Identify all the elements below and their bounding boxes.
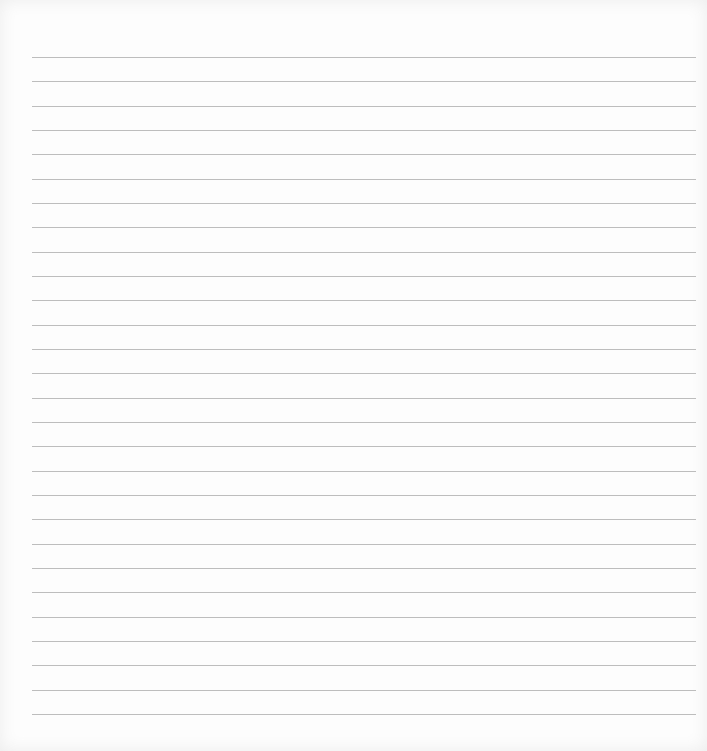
ruled-line [32,81,696,82]
ruled-line [32,57,696,58]
ruled-line [32,471,696,472]
ruled-line [32,422,696,423]
ruled-line [32,227,696,228]
ruled-line [32,130,696,131]
ruled-line [32,495,696,496]
ruled-line [32,203,696,204]
ruled-line [32,568,696,569]
ruled-line [32,252,696,253]
ruled-line [32,714,696,715]
ruled-line [32,106,696,107]
ruled-line [32,665,696,666]
ruled-line [32,446,696,447]
ruled-line [32,300,696,301]
ruled-line [32,519,696,520]
ruled-line [32,641,696,642]
ruled-line [32,398,696,399]
ruled-line [32,690,696,691]
ruled-line [32,349,696,350]
ruled-line [32,276,696,277]
ruled-line [32,373,696,374]
ruled-lines [32,0,696,751]
ruled-line [32,617,696,618]
ruled-line [32,179,696,180]
ruled-line [32,154,696,155]
lined-paper-sheet [0,0,707,751]
ruled-line [32,544,696,545]
ruled-line [32,325,696,326]
ruled-line [32,592,696,593]
